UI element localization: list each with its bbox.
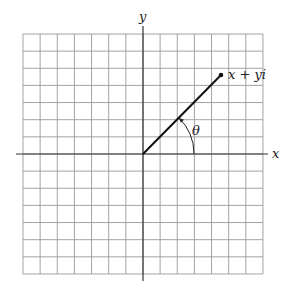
complex-plane-diagram: x y x + yi θ [0, 0, 293, 294]
x-axis-label: x [272, 146, 280, 161]
vector-endpoint-dot [219, 73, 224, 78]
vector-line [143, 75, 221, 154]
point-label-x-plus-yi: x + yi [228, 67, 266, 82]
theta-label: θ [192, 123, 200, 138]
y-axis-label: y [138, 9, 147, 24]
axes [16, 26, 268, 281]
